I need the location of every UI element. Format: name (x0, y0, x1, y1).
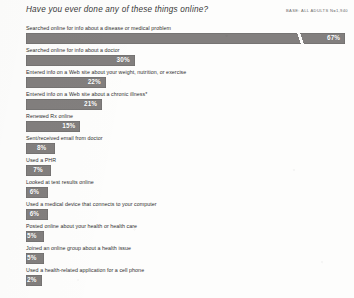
bar-value-label: 22% (88, 78, 101, 86)
bar-row: Entered info on a Web site about your we… (0, 68, 354, 90)
bar-value-label: 21% (84, 100, 97, 108)
survey-bar-chart: Have you ever done any of these things o… (0, 0, 354, 298)
bar-track: 8% (26, 143, 350, 154)
bar-row: Posted online about your health or healt… (0, 222, 354, 244)
bar-row-label: Searched online for info about a disease… (26, 24, 171, 32)
bar-track: 5% (26, 231, 350, 242)
bar-value-label: 7% (33, 166, 42, 174)
bar-track: 15% (26, 121, 350, 132)
bar-row: Joined an online group about a health is… (0, 244, 354, 266)
axis-break-mark (296, 32, 305, 45)
bar-row-label: Posted online about your health or healt… (26, 222, 137, 230)
bar-row-label: Looked at test results online (26, 178, 94, 186)
bar-value-label: 6% (30, 210, 39, 218)
bar-row-label: Used a health-related application for a … (26, 266, 144, 274)
chart-header: Have you ever done any of these things o… (26, 5, 350, 21)
base-note: BASE: ALL ADULTS n=1,940 (286, 8, 348, 13)
bar-value-label: 5% (27, 232, 36, 240)
bar-track: 5% (26, 253, 350, 264)
bar-track: 7% (26, 165, 350, 176)
bar-row-label: Entered info on a Web site about a chron… (26, 90, 147, 98)
bar-row-label: Sent/received email from doctor (26, 134, 103, 142)
bar-row: Sent/received email from doctor8% (0, 134, 354, 156)
bar-row: Used a PHR7% (0, 156, 354, 178)
bar-track: 6% (26, 187, 350, 198)
bar-row-label: Searched online for info about a doctor (26, 46, 120, 54)
bar-row-list: Searched online for info about a disease… (0, 24, 354, 288)
bar-value-label: 8% (37, 144, 46, 152)
bar-row: Renewed Rx online15% (0, 112, 354, 134)
bar-row-label: Used a PHR (26, 156, 56, 164)
bar-value-label: 5% (27, 254, 36, 262)
bar-track: 30% (26, 55, 350, 66)
bar-row: Used a medical device that connects to y… (0, 200, 354, 222)
bar-row: Looked at test results online6% (0, 178, 354, 200)
bar-value-label: 67% (327, 34, 340, 42)
bar-row: Used a health-related application for a … (0, 266, 354, 288)
bar-value-label: 2% (27, 276, 36, 284)
bar-value-label: 30% (117, 56, 130, 64)
bar-row: Searched online for info about a doctor3… (0, 46, 354, 68)
bar-value-label: 6% (30, 188, 39, 196)
bar-track: 21% (26, 99, 350, 110)
bar-track: 67% (26, 33, 350, 44)
bar-row-label: Entered info on a Web site about your we… (26, 68, 186, 76)
bar-row: Searched online for info about a disease… (0, 24, 354, 46)
bar-track: 6% (26, 209, 350, 220)
bar-value-label: 15% (62, 122, 75, 130)
bar-row-label: Joined an online group about a health is… (26, 244, 131, 252)
bar-row-label: Used a medical device that connects to y… (26, 200, 157, 208)
bar-track: 2% (26, 275, 350, 286)
bar-track: 22% (26, 77, 350, 88)
bar-row: Entered info on a Web site about a chron… (0, 90, 354, 112)
chart-title: Have you ever done any of these things o… (26, 5, 208, 14)
bar-row-label: Renewed Rx online (26, 112, 73, 120)
